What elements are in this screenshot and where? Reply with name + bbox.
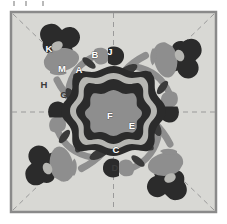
cut-off-text-artifact	[0, 0, 227, 9]
pattern-diagram-page: ABCDEFGHJKM	[0, 0, 227, 224]
pattern-label-a: A	[76, 64, 83, 75]
pattern-label-k: K	[46, 43, 53, 54]
pattern-label-c: C	[113, 144, 120, 155]
block-figure: ABCDEFGHJKM	[9, 10, 218, 214]
pattern-label-j: J	[107, 46, 112, 57]
pattern-label-b: B	[92, 49, 99, 60]
pattern-label-f: F	[107, 110, 113, 121]
pattern-label-m: M	[58, 63, 66, 74]
pattern-label-e: E	[129, 120, 135, 131]
center-rosette	[61, 66, 166, 156]
pattern-label-d: D	[112, 162, 119, 173]
pattern-label-h: H	[41, 79, 48, 90]
pattern-label-g: G	[60, 89, 67, 100]
block-figure-svg: ABCDEFGHJKM	[9, 10, 218, 214]
